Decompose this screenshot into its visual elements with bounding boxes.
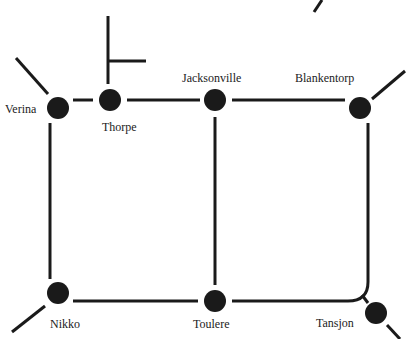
label-verina: Verina — [5, 102, 37, 116]
station-thorpe — [99, 89, 121, 111]
label-toulere: Toulere — [193, 317, 229, 331]
track-stub-top — [314, 0, 322, 12]
station-toulere — [204, 290, 226, 312]
rail-network-diagram: Verina Thorpe Jacksonville Blankentorp N… — [0, 0, 418, 339]
track-tansjon-southeast — [387, 325, 400, 339]
track-blankentorp-northeast — [372, 71, 405, 99]
track-blankentorp-toulere — [232, 123, 368, 301]
station-verina — [47, 97, 69, 119]
label-tansjon: Tansjon — [316, 316, 354, 330]
station-tansjon — [365, 302, 387, 324]
station-nikko — [47, 282, 69, 304]
label-nikko: Nikko — [50, 317, 80, 331]
station-blankentorp — [349, 97, 371, 119]
label-jacksonville: Jacksonville — [182, 71, 241, 85]
track-nikko-southwest — [12, 306, 45, 332]
label-blankentorp: Blankentorp — [295, 71, 354, 85]
station-jacksonville — [204, 89, 226, 111]
label-thorpe: Thorpe — [102, 120, 137, 134]
track-verina-northwest — [16, 58, 48, 94]
